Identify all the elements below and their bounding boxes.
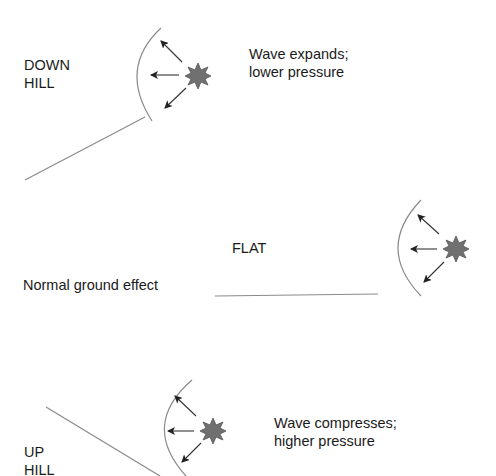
downhill-label-line2: HILL (24, 74, 55, 92)
flat-label: FLAT (232, 239, 266, 257)
arrow-icon (175, 396, 196, 416)
arrow-icon (165, 88, 186, 108)
blast-wave-terrain-diagram (0, 0, 496, 476)
downhill-label-line1: DOWN (24, 56, 70, 74)
flat-ground-line (215, 294, 378, 296)
flat-wavefront-arc (398, 200, 421, 296)
flat-note: Normal ground effect (23, 276, 158, 294)
explosion-burst-icon (200, 418, 226, 444)
arrow-icon (418, 215, 439, 234)
uphill-arrows (168, 396, 201, 462)
uphill-group (46, 380, 226, 476)
downhill-group (25, 28, 211, 180)
explosion-burst-icon (185, 63, 211, 89)
downhill-note-line2: lower pressure (249, 63, 344, 81)
downhill-slope-line (25, 117, 145, 180)
arrow-icon (424, 262, 444, 282)
uphill-label-line2: HILL (24, 461, 55, 476)
uphill-slope-line (46, 407, 160, 476)
uphill-wavefront-arc (164, 380, 192, 476)
uphill-label-line1: UP (24, 443, 44, 461)
uphill-note-line1: Wave compresses; (274, 414, 397, 432)
uphill-note-line2: higher pressure (274, 432, 375, 450)
explosion-burst-icon (443, 236, 469, 262)
flat-arrows (411, 215, 444, 282)
downhill-arrows (151, 41, 186, 108)
arrow-icon (161, 41, 182, 62)
downhill-note-line1: Wave expands; (249, 45, 348, 63)
arrow-icon (182, 443, 201, 462)
